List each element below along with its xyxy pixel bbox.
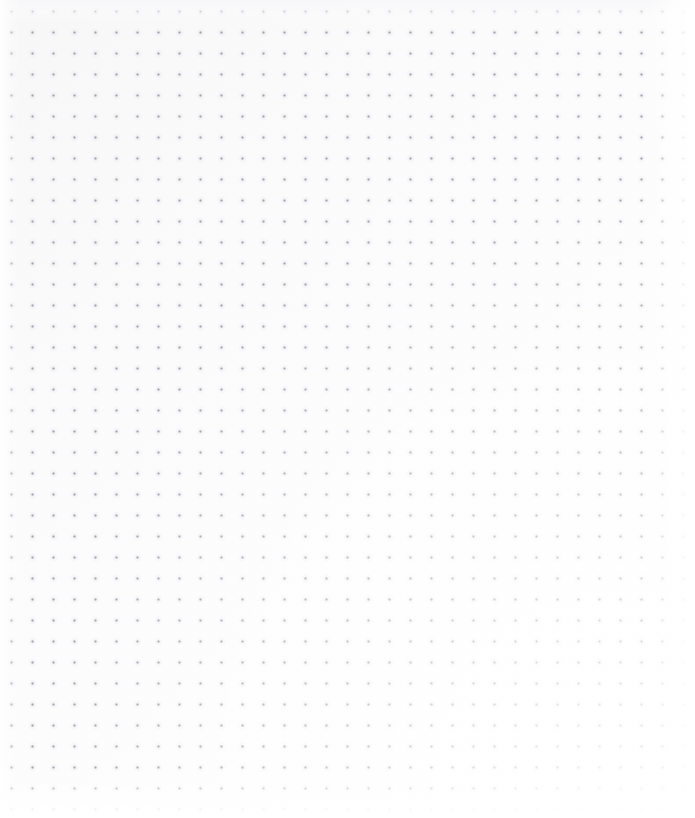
- dot-grid-canvas[interactable]: [0, 0, 695, 818]
- grid-dot-layer: [0, 0, 695, 818]
